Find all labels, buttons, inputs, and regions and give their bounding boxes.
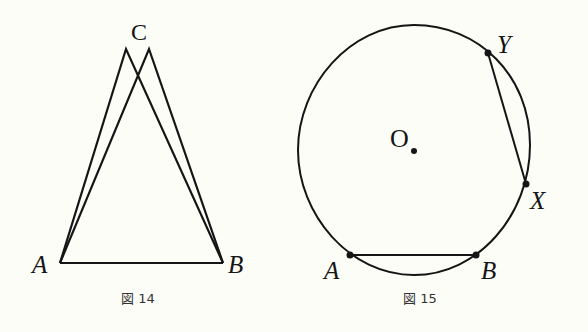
label-y: Y [497,32,511,57]
diagram-canvas: C A B 図 14 O Y X A B 図 15 [0,0,588,332]
label-c: C [131,20,147,44]
label-x: X [530,188,545,213]
caption-figure-15: 図 15 [403,292,437,305]
label-b-fig14: B [228,252,243,277]
label-a-fig14: A [32,252,47,277]
point-b-dot [473,252,480,259]
figure-15-points [347,50,530,259]
point-x-dot [523,181,530,188]
point-y-dot [485,50,492,57]
point-o-dot [411,148,417,154]
label-o: O [390,126,409,152]
triangle-left-apex [60,49,223,263]
caption-figure-14: 図 14 [121,292,155,305]
point-a-dot [347,252,354,259]
figure-14-lines [60,49,223,263]
label-b-fig15: B [481,258,496,283]
label-a-fig15: A [324,258,339,283]
